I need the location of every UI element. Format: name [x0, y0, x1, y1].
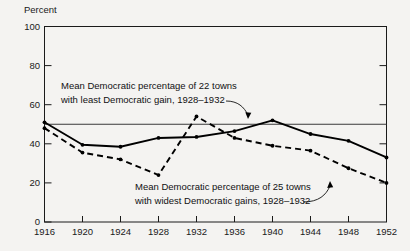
data-point — [309, 149, 313, 153]
data-point — [385, 156, 389, 160]
x-tick-label: 1944 — [300, 226, 321, 237]
data-point — [271, 118, 275, 122]
annotation-least-gain: Mean Democratic percentage of 22 towns w… — [60, 80, 251, 119]
data-point — [119, 158, 123, 162]
y-axis-title: Percent — [24, 4, 57, 15]
x-tick-label: 1924 — [110, 226, 131, 237]
x-tick-label: 1936 — [224, 226, 245, 237]
x-tick-label: 1940 — [262, 226, 283, 237]
y-tick-label: 20 — [29, 177, 40, 188]
data-point — [347, 166, 351, 170]
x-tick-label: 1920 — [72, 226, 93, 237]
annotation-least-gain-line1: Mean Democratic percentage of 22 towns — [61, 80, 237, 91]
data-point — [157, 173, 161, 177]
data-point — [81, 151, 85, 155]
y-tick-label: 80 — [29, 60, 40, 71]
annotation-widest-gains-line2: with widest Democratic gains, 1928–1932 — [134, 195, 310, 206]
data-point — [119, 145, 123, 149]
y-tick-label: 40 — [29, 138, 40, 149]
annotation-least-gain-line2: with least Democratic gain, 1928–1932 — [60, 94, 225, 105]
data-point — [195, 115, 199, 119]
data-point — [233, 136, 237, 140]
data-point — [81, 143, 85, 147]
data-point — [271, 144, 275, 148]
chart-container: Percent 100 80 60 40 20 0 1916 — [0, 0, 410, 251]
data-point — [233, 129, 237, 133]
x-axis-tick-labels: 1916192019241928193219361940194419481952 — [34, 226, 397, 237]
x-tick-label: 1952 — [376, 226, 397, 237]
x-tick-label: 1932 — [186, 226, 207, 237]
y-tick-label: 60 — [29, 99, 40, 110]
annotation-widest-gains-arrowhead — [327, 181, 333, 188]
data-point — [309, 132, 313, 136]
x-tick-label: 1928 — [148, 226, 169, 237]
data-point — [195, 135, 199, 139]
x-tick-label: 1948 — [338, 226, 359, 237]
y-tick-label: 100 — [24, 21, 40, 32]
series-line-widest-gains — [45, 116, 387, 182]
data-point — [43, 126, 47, 130]
data-point — [347, 139, 351, 143]
data-point — [43, 120, 47, 124]
series-markers-widest-gains — [43, 115, 389, 185]
annotation-least-gain-leader — [226, 101, 248, 115]
y-axis-tick-labels: 100 80 60 40 20 0 — [24, 21, 40, 227]
data-point — [385, 181, 389, 185]
data-point — [157, 136, 161, 140]
x-tick-label: 1916 — [34, 226, 55, 237]
annotation-least-gain-arrowhead — [245, 112, 251, 119]
x-axis-ticks — [45, 216, 387, 222]
annotation-widest-gains: Mean Democratic percentage of 25 towns w… — [134, 181, 333, 206]
line-chart: Percent 100 80 60 40 20 0 1916 — [0, 0, 410, 251]
series-line-least-gain — [45, 120, 387, 157]
annotation-widest-gains-line1: Mean Democratic percentage of 25 towns — [135, 181, 311, 192]
